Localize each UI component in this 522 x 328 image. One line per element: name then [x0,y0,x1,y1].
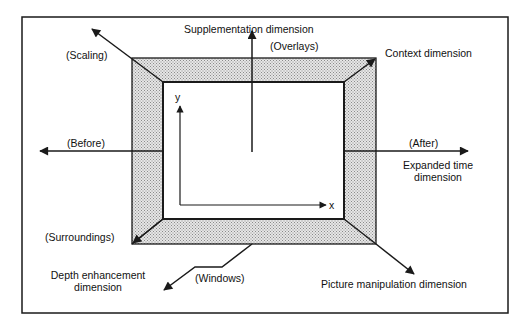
scaling-label: (Scaling) [66,49,107,61]
context-label: Context dimension [385,47,472,59]
expanded-time-label: Expanded time dimension [393,159,483,183]
before-label: (Before) [67,137,105,149]
surroundings-label: (Surroundings) [45,231,114,243]
depth-enhancement-label: Depth enhancement dimension [42,269,154,293]
windows-label: (Windows) [195,272,245,284]
overlays-label: (Overlays) [270,40,318,52]
after-label: (After) [409,137,438,149]
display-area [163,82,344,219]
x-axis-label: x [329,199,334,211]
y-axis-label: y [175,91,180,103]
picture-manipulation-label: Picture manipulation dimension [321,278,467,290]
supplementation-label: Supplementation dimension [184,23,314,35]
